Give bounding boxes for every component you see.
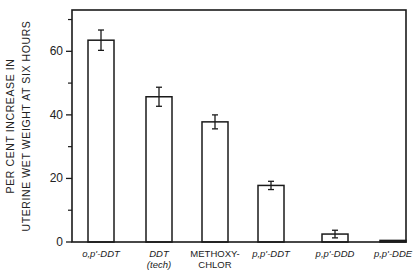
y-axis-label-line: UTERINE WET WEIGHT AT SIX HOURS (20, 21, 32, 232)
y-tick-label: 0 (56, 235, 63, 249)
bar-chart: PER CENT INCREASE INUTERINE WET WEIGHT A… (0, 0, 420, 278)
x-category-label: CHLOR (198, 259, 231, 270)
x-category-label: p,p'-DDD (315, 248, 355, 259)
bars (88, 30, 406, 242)
y-axis-label-line: PER CENT INCREASE IN (4, 59, 16, 194)
plot-frame (72, 10, 406, 242)
bar (202, 122, 228, 242)
x-category-label: (tech) (147, 259, 171, 270)
x-category-label: DDT (149, 248, 170, 259)
y-tick-label: 40 (50, 108, 64, 122)
y-tick-label: 20 (50, 171, 64, 185)
x-category-label: METHOXY- (190, 248, 239, 259)
bar (88, 40, 114, 242)
x-category-label: p,p'-DDT (251, 248, 291, 259)
y-tick-label: 60 (50, 44, 64, 58)
y-axis-ticks: 0204060 (50, 20, 72, 249)
x-category-label: o,p'-DDT (82, 248, 121, 259)
x-category-label: p,p'-DDE (373, 248, 413, 259)
bar (258, 185, 284, 242)
y-axis-label: PER CENT INCREASE INUTERINE WET WEIGHT A… (4, 21, 32, 232)
x-axis-category-labels: o,p'-DDTDDT(tech)METHOXY-CHLORp,p'-DDTp,… (82, 248, 413, 270)
bar (146, 97, 172, 242)
